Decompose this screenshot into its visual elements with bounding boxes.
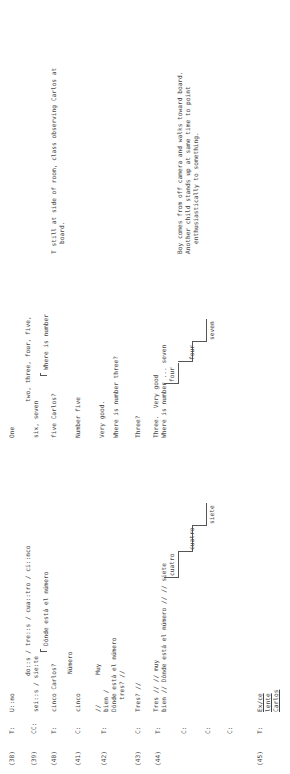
spanish-text: Tres? // xyxy=(134,682,141,712)
spanish-text: Carlos xyxy=(272,690,279,712)
spanish-text: Dónde está el número xyxy=(42,571,49,646)
spanish-text: do::s / tre::s / cua::tro / ci::nco xyxy=(24,546,31,676)
transcript-page: (38) T: U::no One (39) CC: do::s / tre::… xyxy=(0,0,290,774)
english-text: Three. Very good xyxy=(152,375,159,438)
english-text: Where is number xyxy=(42,314,49,370)
overlap-text: seven xyxy=(208,321,215,340)
spanish-text: Dónde está el número xyxy=(110,637,117,712)
english-text: six, seven xyxy=(32,401,39,438)
speaker: C: xyxy=(226,727,233,734)
spanish-text: bien // Dónde está el número // // siete xyxy=(160,563,167,712)
context-note: board. xyxy=(58,222,65,244)
english-text: Where is number three? xyxy=(112,356,119,438)
line-number: (38) xyxy=(8,751,15,766)
english-text: Number five xyxy=(74,397,81,438)
english-text: two, three, four, five, xyxy=(24,316,31,402)
spanish-text: Ex/ce xyxy=(256,693,263,712)
spanish-text: cinco xyxy=(74,693,81,712)
spanish-text: U::no xyxy=(8,693,15,712)
spanish-text: cinco Carlos? xyxy=(50,664,57,712)
english-text: One xyxy=(8,427,15,438)
line-number: (45) xyxy=(256,751,263,766)
english-text: Very good. xyxy=(98,401,105,438)
overlap-text: cuatro xyxy=(188,528,195,550)
context-note: enthusiastically to something. xyxy=(192,132,199,244)
speaker: T: xyxy=(50,727,57,734)
spanish-text: // Muy xyxy=(94,664,101,712)
english-text: five Carlos? xyxy=(50,393,57,438)
speaker: C: xyxy=(204,727,211,734)
spanish-text: lente xyxy=(264,693,271,712)
speaker: C: xyxy=(74,727,81,734)
line-number: (41) xyxy=(74,751,81,766)
speaker: T: xyxy=(100,727,107,734)
overlap-text: four xyxy=(188,345,195,360)
line-number: (44) xyxy=(154,751,161,766)
speaker: T: xyxy=(8,727,15,734)
overlap-text: siete xyxy=(208,505,215,524)
line-number: (42) xyxy=(100,751,107,766)
speaker: CC: xyxy=(30,723,37,734)
overlap-text: cuatro xyxy=(168,554,175,576)
speaker: T: xyxy=(256,727,263,734)
speaker: C: xyxy=(134,727,141,734)
spanish-text: tres? // xyxy=(118,670,125,700)
line-number: (43) xyxy=(134,751,141,766)
overlap-text: four xyxy=(168,367,175,382)
spanish-text: Tres // // muy xyxy=(152,660,159,712)
spanish-text: Número xyxy=(66,652,73,674)
english-text: Where is number ... seven xyxy=(160,345,167,438)
speaker: T: xyxy=(154,727,161,734)
english-text: Three? xyxy=(134,416,141,438)
line-number: (40) xyxy=(50,751,57,766)
spanish-text: sei::s / sie:te xyxy=(32,656,39,712)
speaker: C: xyxy=(180,727,187,734)
context-note: Another child stands up at same time to … xyxy=(184,86,191,254)
context-note: Boy comes from off camera and walks towa… xyxy=(176,71,183,254)
spanish-text: bien / xyxy=(102,690,109,712)
context-note: T still at side of room, class observing… xyxy=(50,68,57,254)
line-number: (39) xyxy=(30,751,37,766)
